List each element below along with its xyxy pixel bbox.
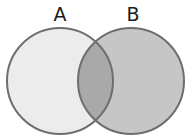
set-b-label: B <box>126 3 139 25</box>
venn-diagram: A B <box>0 0 190 139</box>
set-a-label: A <box>54 3 67 25</box>
